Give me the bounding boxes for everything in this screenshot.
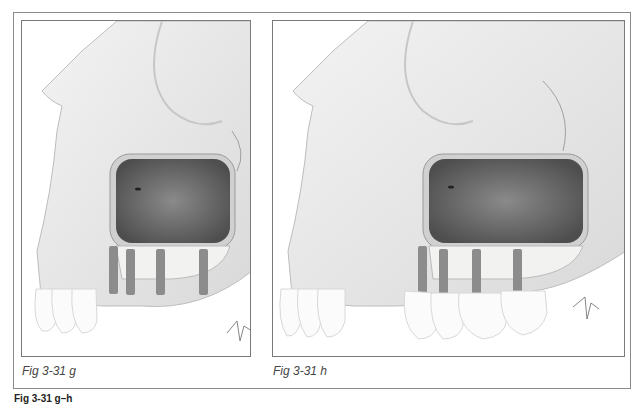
figure-panel-h: [272, 20, 625, 357]
figure-legend-truncated: Fig 3-31 g–h: [14, 393, 72, 404]
panel-caption-h: Fig 3-31 h: [273, 364, 327, 378]
artist-signature: [227, 321, 251, 341]
maxilla-illustration: [273, 21, 625, 357]
artist-signature: [573, 297, 599, 319]
panel-caption-g: Fig 3-31 g: [22, 364, 76, 378]
figure-panel-g: [21, 20, 251, 357]
maxilla-illustration: [22, 21, 251, 357]
